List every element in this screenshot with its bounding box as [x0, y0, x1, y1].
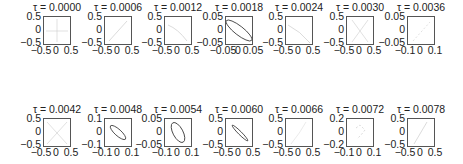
curve-plot: [44, 119, 70, 146]
subplot-panel: τ = 0.00180.050−0.05−0.0500.05: [225, 16, 252, 44]
subplot-panel: τ = 0.00660.50−0.5−0.500.5: [285, 118, 312, 146]
curve-plot: [286, 17, 312, 44]
plot-area: [164, 16, 192, 45]
subplot-panel: τ = 0.00600.50−0.5−0.500.5: [225, 118, 252, 146]
x-tick-label: 0.1: [415, 44, 455, 56]
y-tick-label: 0.5: [249, 112, 283, 124]
subplot-panel: τ = 0.00060.50−0.5−0.500.5: [104, 16, 131, 44]
y-tick-label: 0.5: [249, 10, 283, 22]
y-tick-label: 0.05: [189, 10, 223, 22]
plot-area: [164, 118, 192, 147]
subplot-panel: τ = 0.00480.10−0.1−0.100.1: [104, 118, 131, 146]
curve-plot: [408, 119, 434, 146]
y-tick-label: 0.2: [310, 112, 344, 124]
y-tick-label: 0: [310, 125, 344, 137]
y-tick-label: 0.5: [371, 112, 405, 124]
curve-plot: [347, 17, 373, 44]
subplot-panel: τ = 0.00300.50−0.5−0.500.5: [346, 16, 373, 44]
y-tick-label: 0.5: [310, 10, 344, 22]
subplot-panel: τ = 0.00540.050−0.05−0.100.1: [164, 118, 191, 146]
plot-area: [43, 118, 71, 147]
plot-area: [407, 118, 435, 147]
subplot-panel: τ = 0.00240.50−0.5−0.500.5: [285, 16, 312, 44]
y-tick-label: 0.5: [189, 112, 223, 124]
curve-plot: [286, 119, 312, 146]
y-tick-label: 0: [128, 23, 162, 35]
plot-area: [43, 16, 71, 45]
curve-plot: [347, 119, 373, 146]
x-tick-label: 0.5: [415, 146, 455, 158]
subplot-panel: τ = 0.00360.050−0.05−0.100.1: [407, 16, 434, 44]
y-tick-label: 0: [310, 23, 344, 35]
subplot-panel: τ = 0.00420.50−0.5−0.500.5: [43, 118, 70, 146]
curve-plot: [165, 17, 191, 44]
y-tick-label: 0.5: [7, 10, 41, 22]
y-tick-label: 0.05: [371, 10, 405, 22]
y-tick-label: 0.5: [128, 10, 162, 22]
y-tick-label: 0: [128, 125, 162, 137]
y-tick-label: 0: [7, 23, 41, 35]
plot-area: [285, 118, 313, 147]
plot-area: [346, 118, 374, 147]
y-tick-label: 0: [68, 23, 102, 35]
subplot-panel: τ = 0.00720.20−0.2−0.100.1: [346, 118, 373, 146]
y-tick-label: 0: [371, 23, 405, 35]
subplot-panel: τ = 0.00120.50−0.5−0.500.5: [164, 16, 191, 44]
plot-area: [407, 16, 435, 45]
y-tick-label: 0.1: [68, 112, 102, 124]
y-tick-label: 0: [249, 23, 283, 35]
plot-area: [285, 16, 313, 45]
subplot-panel: τ = 0.00000.50−0.5−0.500.5: [43, 16, 70, 44]
curve-plot: [408, 17, 434, 44]
y-tick-label: 0: [371, 125, 405, 137]
subplot-panel: τ = 0.00780.50−0.5−0.500.5: [407, 118, 434, 146]
plot-area: [346, 16, 374, 45]
y-tick-label: 0.5: [7, 112, 41, 124]
y-tick-label: 0: [249, 125, 283, 137]
y-tick-label: 0: [189, 125, 223, 137]
y-tick-label: 0: [7, 125, 41, 137]
curve-plot: [44, 17, 70, 44]
y-tick-label: 0: [189, 23, 223, 35]
y-tick-label: 0.5: [68, 10, 102, 22]
y-tick-label: 0: [68, 125, 102, 137]
y-tick-label: 0.05: [128, 112, 162, 124]
curve-plot: [165, 119, 191, 146]
